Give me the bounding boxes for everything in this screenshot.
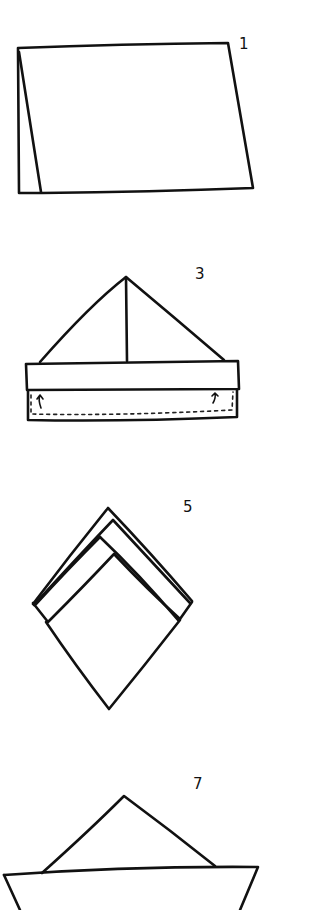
step-number-3: 3 [195, 267, 205, 282]
arrow-up-right-icon [212, 393, 218, 403]
step-5-figure [33, 508, 192, 709]
arrow-up-left-icon [37, 395, 43, 408]
step-7-figure [4, 796, 258, 910]
folding-diagram: 1 3 5 7 [0, 0, 325, 910]
step-number-7: 7 [193, 777, 203, 792]
step-1-figure [18, 43, 253, 193]
step-3-figure [26, 277, 239, 421]
step-number-5: 5 [183, 500, 193, 515]
diagram-canvas [0, 0, 325, 910]
step-number-1: 1 [239, 37, 249, 52]
